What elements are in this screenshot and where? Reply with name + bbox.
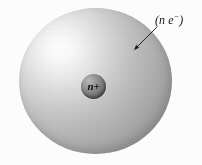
- nucleus-sphere: n+: [81, 74, 106, 99]
- nucleus-charge-label: n+: [88, 81, 100, 92]
- electron-cloud-label-close: ): [179, 13, 183, 27]
- electron-cloud-label: (n e−): [155, 13, 183, 26]
- electron-cloud-label-text: (n e: [155, 13, 174, 27]
- atom-diagram: n+ (n e−): [0, 0, 202, 165]
